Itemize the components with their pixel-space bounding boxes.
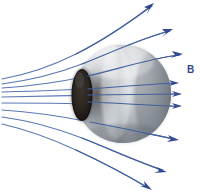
magnetic-field-figure: B <box>0 0 201 194</box>
field-label-B: B <box>187 64 194 75</box>
aperture-inner-sheen <box>75 72 84 88</box>
field-diagram-canvas: B <box>0 0 201 194</box>
